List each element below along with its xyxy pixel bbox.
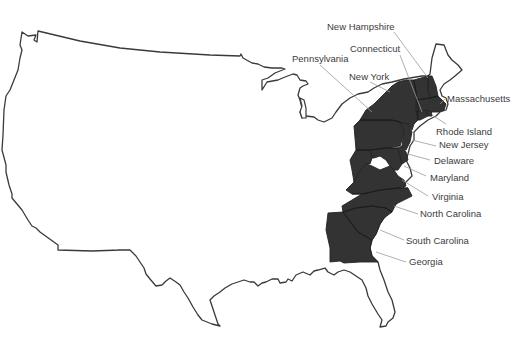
label-north-carolina: North Carolina [420,208,482,219]
label-maryland: Maryland [430,172,469,183]
lake-michigan [300,98,306,118]
label-georgia: Georgia [409,256,444,267]
label-new-hampshire: New Hampshire [327,21,395,32]
label-pennsylvania: Pennsylvania [292,53,349,64]
colonies-map: New Hampshire Connecticut Pennsylvania N… [0,0,531,358]
label-south-carolina: South Carolina [406,235,470,246]
label-rhode-island: Rhode Island [436,126,492,137]
label-new-jersey: New Jersey [439,139,489,150]
label-delaware: Delaware [434,155,474,166]
label-virginia: Virginia [432,191,464,202]
colony-pennsylvania [354,120,404,150]
label-massachusetts: Massachusetts [447,93,511,104]
label-new-york: New York [349,71,389,82]
label-connecticut: Connecticut [350,43,401,54]
